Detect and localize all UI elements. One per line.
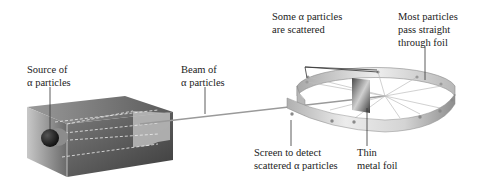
metal-foil [352,78,370,113]
label-foil: Thin metal foil [357,146,398,172]
label-beam: Beam of α particles [181,63,225,89]
label-source: Source of α particles [27,63,71,89]
label-screen: Screen to detect scattered α particles [254,146,338,172]
label-straight-through: Most particles pass straight through foi… [398,10,458,49]
alpha-source [41,128,68,147]
label-scattered: Some α particles are scattered [272,10,342,36]
